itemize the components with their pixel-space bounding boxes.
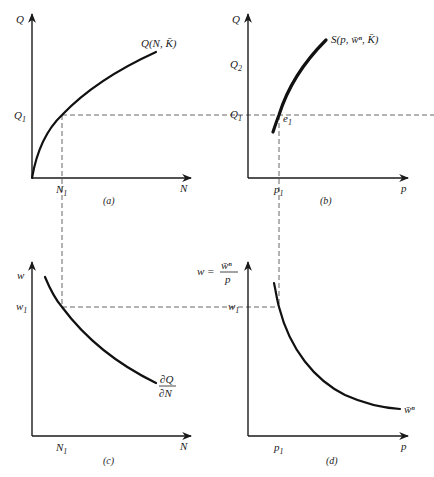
panel-b-caption: (b) — [320, 195, 332, 207]
panel-d-x-label: p — [400, 440, 407, 452]
svg-text:w =: w = — [197, 265, 215, 277]
panel-c-n1-label: N1 — [55, 441, 67, 456]
panel-a-caption: (a) — [103, 195, 115, 207]
panel-c-y-label: w — [17, 269, 25, 281]
real-wage-hyperbola-curve — [274, 283, 400, 409]
panel-c-x-label: N — [179, 440, 188, 452]
panel-d: w = w̄ⁿ p p w1 p1 w̄ⁿ (d) — [197, 259, 415, 467]
panel-d-caption: (d) — [326, 455, 338, 467]
panel-b-q2-label: Q2 — [230, 58, 242, 73]
panel-c-caption: (c) — [103, 455, 115, 467]
equilibrium-point-e1-label: e1 — [283, 112, 292, 127]
panel-b-q1-label: Q1 — [230, 108, 242, 123]
panel-c: w N w1 N1 ∂Q ∂N (c) — [16, 262, 191, 467]
panel-a-y-label: Q — [16, 13, 24, 25]
svg-text:∂Q: ∂Q — [160, 373, 173, 385]
panel-b-y-label: Q — [232, 13, 240, 25]
panel-b: Q p Q2 Q1 e1 p1 S(p, w̄ⁿ, K̄) (b) — [230, 13, 408, 207]
svg-text:∂N: ∂N — [159, 387, 172, 399]
panel-d-p1-label: p1 — [273, 441, 284, 456]
panel-d-y-label: w = w̄ⁿ p — [197, 259, 238, 285]
panel-a: Q N Q1 N1 Q(N, K̄) (a) — [14, 13, 191, 207]
real-wage-curve-label: w̄ⁿ — [404, 403, 415, 415]
panel-b-p1-label: p1 — [273, 183, 284, 198]
panel-a-x-label: N — [179, 182, 188, 194]
svg-text:w̄ⁿ: w̄ⁿ — [221, 259, 232, 271]
supply-curve — [273, 40, 326, 132]
panel-a-q1-label: Q1 — [14, 109, 26, 124]
panel-c-w1-label: w1 — [16, 300, 27, 315]
supply-curve-label: S(p, w̄ⁿ, K̄) — [331, 33, 379, 46]
marginal-product-label: ∂Q ∂N — [159, 373, 176, 399]
production-function-label: Q(N, K̄) — [141, 37, 177, 50]
panel-d-w1-label: w1 — [228, 300, 239, 315]
svg-text:p: p — [224, 273, 231, 285]
panel-b-x-label: p — [400, 182, 407, 194]
panel-a-n1-label: N1 — [55, 183, 67, 198]
four-panel-economics-diagram: Q N Q1 N1 Q(N, K̄) (a) Q p Q2 Q1 e1 p1 S… — [0, 0, 434, 477]
